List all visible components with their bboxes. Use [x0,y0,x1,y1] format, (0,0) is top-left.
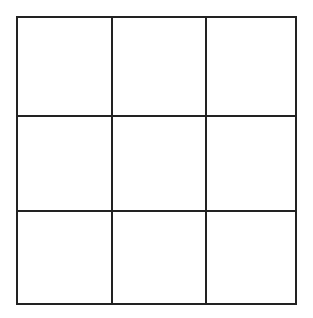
grid-line-vertical-2 [205,18,207,303]
grid-cell-0-0[interactable] [18,18,111,115]
grid-line-horizontal-2 [18,210,295,212]
grid-cell-2-2[interactable] [207,212,295,303]
grid-cell-1-2[interactable] [207,117,295,210]
tic-tac-toe-grid [16,16,297,305]
grid-cell-1-0[interactable] [18,117,111,210]
grid-cell-2-0[interactable] [18,212,111,303]
grid-cell-0-2[interactable] [207,18,295,115]
grid-cell-2-1[interactable] [113,212,205,303]
grid-cell-0-1[interactable] [113,18,205,115]
grid-line-horizontal-1 [18,115,295,117]
canvas [0,0,313,318]
grid-cell-1-1[interactable] [113,117,205,210]
grid-line-vertical-1 [111,18,113,303]
